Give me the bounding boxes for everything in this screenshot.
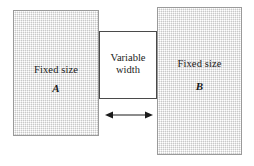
variable-width-block: Variable width xyxy=(99,31,157,99)
block-b-letter: B xyxy=(158,80,241,92)
fixed-size-block-a: Fixed size A xyxy=(13,10,99,136)
variable-block-title-line1: Variable xyxy=(100,52,156,65)
arrow-head-right xyxy=(145,112,153,119)
fixed-size-block-b: Fixed size B xyxy=(157,7,242,155)
double-headed-width-arrow-icon xyxy=(101,107,157,123)
block-a-letter: A xyxy=(14,82,98,94)
variable-block-title-line2: width xyxy=(100,64,156,77)
block-a-title: Fixed size xyxy=(14,64,98,76)
arrow-head-left xyxy=(105,112,113,119)
diagram-canvas: Fixed size A Variable width Fixed size B xyxy=(0,0,254,166)
block-b-title: Fixed size xyxy=(158,58,241,70)
